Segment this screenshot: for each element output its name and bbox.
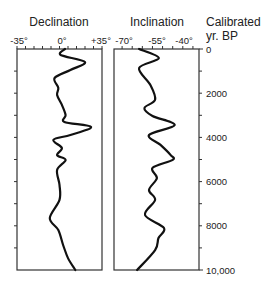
age-axis-title-line2: yr. BP xyxy=(206,29,238,43)
paleomagnetic-chart: Declination Inclination Calibrated yr. B… xyxy=(0,0,270,286)
dec-tick-label: 0° xyxy=(57,35,66,46)
age-tick-label: 10,000 xyxy=(206,265,235,276)
inc-tick-label: -70° xyxy=(115,35,133,46)
inclination-curve xyxy=(137,49,175,270)
age-tick-label: 6000 xyxy=(206,176,227,187)
inclination-panel-frame xyxy=(114,49,199,270)
dec-tick-label: -35° xyxy=(10,35,28,46)
age-tick-label: 2000 xyxy=(206,88,227,99)
inc-tick-label: -40° xyxy=(175,35,193,46)
age-tick-label: 4000 xyxy=(206,132,227,143)
declination-curve xyxy=(50,49,91,270)
age-tick-label: 8000 xyxy=(206,220,227,231)
age-axis-title-line1: Calibrated xyxy=(206,15,261,29)
inclination-title: Inclination xyxy=(130,15,184,29)
age-axis: 0200040006000800010,000 xyxy=(199,44,235,276)
declination-title: Declination xyxy=(29,15,88,29)
age-tick-label: 0 xyxy=(206,44,211,55)
dec-tick-label: +35° xyxy=(91,35,111,46)
inc-tick-label: -55° xyxy=(148,35,166,46)
declination-panel-frame xyxy=(17,49,102,270)
